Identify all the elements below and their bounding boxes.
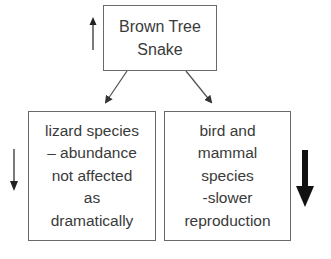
node-label-line: Brown Tree: [119, 15, 201, 38]
node-label-line: reproduction: [184, 210, 270, 233]
trend-down-arrow-icon: [10, 149, 18, 191]
node-label-line: -slower: [203, 187, 253, 210]
edge-snake-to-lizard: [106, 71, 127, 102]
node-label-line: Snake: [137, 38, 182, 61]
trend-thick-down-arrow-icon: [296, 150, 314, 207]
node-label-line: – abundance: [47, 142, 137, 165]
node-label-line: lizard species: [45, 120, 139, 143]
node-label-line: mammal: [198, 142, 257, 165]
node-label-line: dramatically: [51, 210, 134, 233]
node-brown-tree-snake: Brown Tree Snake: [103, 5, 217, 71]
node-label-line: species: [201, 165, 254, 188]
node-label-line: not affected: [52, 165, 133, 188]
node-lizard-species: lizard species – abundance not affected …: [28, 111, 156, 241]
node-bird-mammal-species: bird and mammal species -slower reproduc…: [164, 111, 291, 241]
trend-up-arrow-icon: [90, 17, 97, 50]
node-label-line: bird and: [199, 120, 255, 143]
edge-snake-to-bird-mammal: [186, 71, 211, 102]
node-label-line: as: [84, 187, 100, 210]
